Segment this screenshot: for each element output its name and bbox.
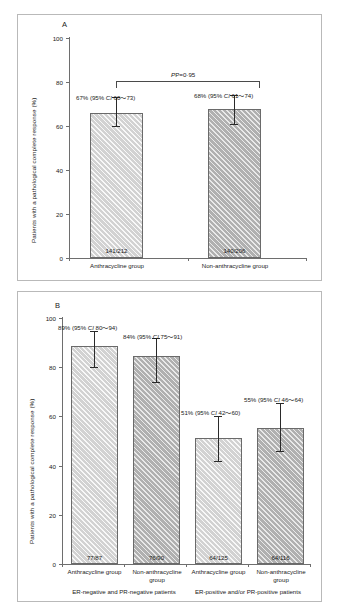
panel-b-group-label-er-positive: ER-positive and/or PR-positive patients: [186, 588, 310, 595]
panel-a-ytick-60: [66, 126, 69, 127]
panel-a-errorcap-bottom-non-anthracycline: [230, 124, 238, 125]
panel-a-fraction-non-anthracycline: 140/206: [208, 247, 261, 254]
panel-a-ytick-label-20: 20: [47, 211, 63, 218]
panel-a-fraction-anthracycline: 141/212: [90, 247, 143, 254]
panel-a-ytick-label-40: 40: [47, 167, 63, 174]
panel-a-y-axis: [69, 37, 70, 258]
panel-b-errorbar-erpositive-anthracycline: [218, 416, 219, 461]
panel-a-ytick-label-0: 0: [47, 255, 63, 262]
panel-a-value-label-non-anthracycline: 68% (95% CI 61～74): [194, 91, 253, 100]
panel-b-ytick-label-40: 40: [40, 463, 56, 470]
panel-a-ytick-80: [66, 82, 69, 83]
panel-b-ytick-80: [59, 367, 62, 368]
panel-b-xtick-4: [310, 564, 311, 567]
panel-b-bar-ernegative-anthracycline: [71, 346, 118, 564]
panel-b-category-ernegative-non-anthracycline: Non-anthracycline group: [129, 568, 185, 583]
panel-a-xtick-right: [306, 258, 307, 261]
panel-b-xtick-3: [248, 564, 249, 567]
panel-b-bar-ernegative-non-anthracycline: [133, 356, 180, 564]
panel-b-ytick-60: [59, 416, 62, 417]
panel-a-xtick-mid: [188, 258, 189, 261]
figure-root: A Patients with a pathological complete …: [0, 0, 339, 616]
panel-a-bar-anthracycline: [90, 113, 143, 258]
panel-b-ytick-100: [59, 318, 62, 319]
panel-b-value-label-ernegative-anthracycline: 89% (95% CI 80～94): [58, 323, 117, 332]
panel-b-xtick-0: [62, 564, 63, 567]
panel-b-xtick-2: [186, 564, 187, 567]
panel-b-letter: B: [55, 301, 60, 310]
panel-a-xtick-left: [69, 258, 70, 261]
panel-b-ytick-20: [59, 515, 62, 516]
panel-b-xtick-1: [124, 564, 125, 567]
panel-b-errorbar-erpositive-non-anthracycline: [280, 403, 281, 451]
panel-b-errorcap-bottom-erpositive-anthracycline: [214, 461, 222, 462]
panel-a-ytick-20: [66, 214, 69, 215]
panel-b-fraction-ernegative-non-anthracycline: 76/90: [133, 554, 180, 561]
panel-a-y-axis-label: Patients with a pathological complete re…: [30, 98, 37, 243]
panel-a-value-label-anthracycline: 67% (95% CI 60～73): [76, 93, 135, 102]
panel-b-errorbar-ernegative-non-anthracycline: [156, 338, 157, 382]
panel-a-ytick-40: [66, 170, 69, 171]
panel-b-value-label-erpositive-non-anthracycline: 55% (95% CI 46～64): [244, 395, 303, 404]
panel-a-ytick-label-60: 60: [47, 123, 63, 130]
panel-a-bar-non-anthracycline: [208, 109, 261, 258]
panel-b-category-ernegative-anthracycline: Anthracycline group: [61, 568, 128, 576]
panel-b-y-axis: [62, 317, 63, 564]
panel-a-ytick-label-100: 100: [47, 35, 63, 42]
panel-b-errorcap-bottom-ernegative-non-anthracycline: [152, 382, 160, 383]
panel-a-category-non-anthracycline: Non-anthracycline group: [191, 262, 279, 270]
panel-b-ytick-label-100: 100: [40, 315, 56, 322]
panel-b-errorcap-bottom-ernegative-anthracycline: [90, 367, 98, 368]
panel-b-fraction-erpositive-anthracycline: 64/125: [195, 554, 242, 561]
panel-a-category-anthracycline: Anthracycline group: [76, 262, 158, 270]
panel-b-value-label-erpositive-anthracycline: 51% (95% CI 42～60): [181, 408, 240, 417]
panel-b-errorcap-bottom-erpositive-non-anthracycline: [276, 451, 284, 452]
panel-b-category-erpositive-anthracycline: Anthracycline group: [185, 568, 252, 576]
panel-b-value-label-ernegative-non-anthracycline: 84% (95% CI 75～91): [123, 332, 182, 341]
panel-a-p-value: P=0·95: [175, 71, 195, 78]
panel-a-errorcap-bottom-anthracycline: [112, 126, 120, 127]
panel-a: A Patients with a pathological complete …: [17, 14, 322, 281]
panel-b-group-label-er-negative: ER-negative and PR-negative patients: [62, 588, 186, 595]
panel-a-letter: A: [62, 20, 67, 29]
panel-b-fraction-erpositive-non-anthracycline: 64/116: [257, 554, 304, 561]
panel-b-ytick-label-0: 0: [40, 561, 56, 568]
panel-a-ytick-label-80: 80: [47, 79, 63, 86]
panel-b-y-axis-label: Patients with a pathological complete re…: [28, 399, 35, 544]
panel-b-category-erpositive-non-anthracycline: Non-anthracycline group: [253, 568, 309, 583]
panel-a-p-label: PP=0·95: [171, 71, 195, 78]
panel-b-ytick-label-20: 20: [40, 512, 56, 519]
panel-b-fraction-ernegative-anthracycline: 77/87: [71, 554, 118, 561]
panel-b-ytick-40: [59, 466, 62, 467]
panel-b-ytick-label-80: 80: [40, 364, 56, 371]
panel-b-errorbar-ernegative-anthracycline: [94, 331, 95, 367]
panel-b: B Patients with a pathological complete …: [17, 291, 322, 602]
panel-a-p-bracket: [116, 81, 260, 88]
panel-b-ytick-label-60: 60: [40, 413, 56, 420]
panel-a-ytick-100: [66, 38, 69, 39]
